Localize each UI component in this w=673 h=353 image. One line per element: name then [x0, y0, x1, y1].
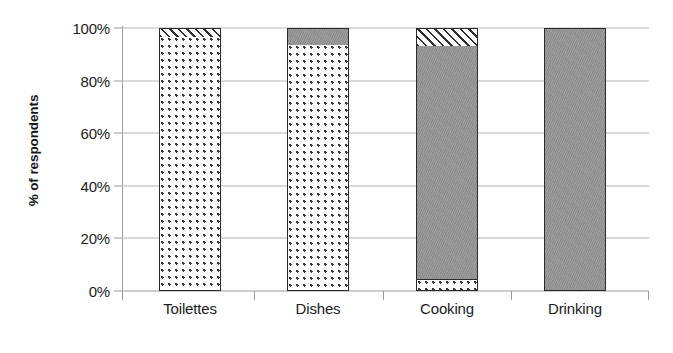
x-category-label-cooking: Cooking [420, 300, 474, 317]
y-axis-tick-labels: 0%20%40%60%80%100% [44, 28, 116, 291]
bar-segment-dishes-dotted[interactable] [287, 45, 349, 291]
chart-figure: % of respondents 0%20%40%60%80%100% Toil… [0, 0, 673, 353]
bar-segment-toilettes-hatched[interactable] [159, 28, 221, 37]
y-tick-label: 20% [81, 230, 110, 247]
bar-stack [287, 28, 349, 291]
x-tick-mark [254, 291, 255, 300]
y-tick-mark [114, 28, 122, 29]
y-tick-mark [114, 185, 122, 186]
x-tick-mark [648, 291, 649, 300]
bar-stack [544, 28, 606, 291]
bar-group-toilettes[interactable] [159, 28, 221, 291]
y-tick-mark [114, 133, 122, 134]
bar-stack [416, 28, 478, 291]
bar-group-cooking[interactable] [416, 28, 478, 291]
y-tick-label: 0% [89, 283, 110, 300]
y-axis-title-text: % of respondents [27, 94, 42, 206]
bar-segment-cooking-hatched[interactable] [416, 28, 478, 46]
y-tick-label: 40% [81, 177, 110, 194]
bar-segment-dishes-gray[interactable] [287, 28, 349, 45]
x-axis-category-labels: ToilettesDishesCookingDrinking [122, 300, 649, 330]
bar-group-dishes[interactable] [287, 28, 349, 291]
bar-segment-cooking-dotted[interactable] [416, 280, 478, 291]
y-tick-label: 100% [72, 20, 110, 37]
y-tick-mark [114, 238, 122, 239]
x-category-label-toilettes: Toilettes [163, 300, 217, 317]
bar-group-drinking[interactable] [544, 28, 606, 291]
y-tick-mark [114, 80, 122, 81]
y-tick-mark [114, 291, 122, 292]
x-category-label-drinking: Drinking [548, 300, 602, 317]
x-tick-mark [122, 291, 123, 300]
y-tick-label: 60% [81, 125, 110, 142]
y-tick-label: 80% [81, 72, 110, 89]
bar-stack [159, 28, 221, 291]
x-tick-mark [511, 291, 512, 300]
x-category-label-dishes: Dishes [296, 300, 341, 317]
bar-segment-toilettes-dotted[interactable] [159, 37, 221, 291]
plot-area [122, 28, 649, 291]
x-tick-mark [383, 291, 384, 300]
bar-segment-cooking-gray[interactable] [416, 46, 478, 280]
bar-segment-drinking-gray[interactable] [544, 28, 606, 291]
